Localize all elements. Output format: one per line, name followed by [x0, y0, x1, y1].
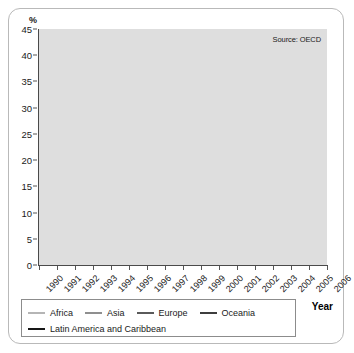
legend-item[interactable]: Africa [28, 308, 73, 318]
x-tick-mark [111, 266, 112, 270]
x-tick-label: 2004 [296, 273, 317, 294]
x-tick-label: 1994 [116, 273, 137, 294]
legend-swatch-icon [28, 312, 45, 315]
x-tick-mark [75, 266, 76, 270]
plot-area: Source: OECD [39, 29, 327, 265]
x-tick-label: 1992 [80, 273, 101, 294]
x-tick-label: 2005 [314, 273, 335, 294]
x-tick-mark [273, 266, 274, 270]
legend-swatch-icon [28, 328, 45, 331]
y-tick-mark [33, 107, 37, 108]
x-tick-mark [147, 266, 148, 270]
y-tick-label: 25 [21, 128, 32, 139]
y-tick-label: 0 [27, 260, 32, 271]
x-tick-mark [57, 266, 58, 270]
x-tick-mark [327, 266, 328, 270]
y-tick-label: 45 [21, 24, 32, 35]
x-tick-mark [219, 266, 220, 270]
x-tick-label: 2001 [242, 273, 263, 294]
legend-item[interactable]: Europe [137, 308, 188, 318]
x-tick-label: 1998 [188, 273, 209, 294]
x-tick-mark [93, 266, 94, 270]
x-tick-label: 1995 [134, 273, 155, 294]
chart-legend: AfricaAsiaEuropeOceania Latin America an… [21, 299, 296, 337]
legend-row-2: Latin America and Caribbean [28, 321, 289, 337]
x-tick-label: 2006 [332, 273, 353, 294]
x-tick-label: 1991 [62, 273, 83, 294]
x-tick-mark [129, 266, 130, 270]
y-tick-label: 15 [21, 181, 32, 192]
x-tick-label: 2003 [278, 273, 299, 294]
x-tick-mark [291, 266, 292, 270]
legend-label: Latin America and Caribbean [50, 324, 166, 334]
x-tick-label: 2002 [260, 273, 281, 294]
y-tick-label: 20 [21, 155, 32, 166]
y-tick-mark [33, 212, 37, 213]
y-tick-label: 30 [21, 102, 32, 113]
plot-background [39, 29, 327, 265]
legend-item[interactable]: Latin America and Caribbean [28, 324, 166, 334]
legend-item[interactable]: Oceania [200, 308, 256, 318]
y-tick-label: 10 [21, 207, 32, 218]
legend-swatch-icon [200, 312, 217, 315]
y-tick-label: 5 [27, 233, 32, 244]
x-tick-label: 1997 [170, 273, 191, 294]
y-tick-mark [33, 81, 37, 82]
x-tick-mark [237, 266, 238, 270]
x-tick-label: 2000 [224, 273, 245, 294]
y-tick-mark [33, 238, 37, 239]
legend-swatch-icon [85, 312, 102, 315]
legend-swatch-icon [137, 312, 154, 315]
chart-card: % 051015202530354045 Source: OECD Year A… [8, 8, 344, 344]
y-tick-mark [33, 160, 37, 161]
legend-label: Europe [159, 308, 188, 318]
y-tick-mark [33, 265, 37, 266]
x-tick-label: 1990 [44, 273, 65, 294]
x-axis-title: Year [312, 301, 333, 312]
x-tick-mark [39, 266, 40, 270]
legend-label: Oceania [222, 308, 256, 318]
x-tick-mark [309, 266, 310, 270]
y-tick-mark [33, 55, 37, 56]
legend-item[interactable]: Asia [85, 308, 125, 318]
legend-label: Africa [50, 308, 73, 318]
y-axis-labels: 051015202530354045 [9, 29, 37, 265]
y-tick-mark [33, 133, 37, 134]
x-tick-mark [201, 266, 202, 270]
legend-row-1: AfricaAsiaEuropeOceania [28, 305, 289, 321]
y-tick-label: 40 [21, 50, 32, 61]
x-tick-label: 1999 [206, 273, 227, 294]
legend-label: Asia [107, 308, 125, 318]
y-tick-mark [33, 29, 37, 30]
y-tick-mark [33, 186, 37, 187]
x-tick-mark [165, 266, 166, 270]
source-annotation: Source: OECD [273, 35, 321, 44]
y-tick-label: 35 [21, 76, 32, 87]
x-tick-mark [183, 266, 184, 270]
x-tick-mark [255, 266, 256, 270]
x-tick-label: 1993 [98, 273, 119, 294]
x-tick-label: 1996 [152, 273, 173, 294]
